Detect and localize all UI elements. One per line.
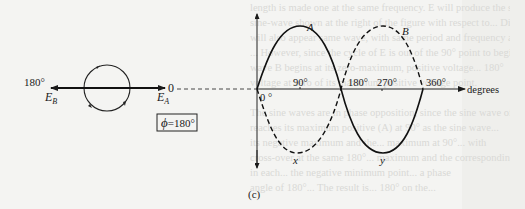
phasor-diagram: 180° EB 0 EA (24, 65, 257, 111)
point-y-label: y (379, 154, 385, 166)
curve-a-label: A (306, 21, 314, 33)
tick-label-90: 90° (293, 77, 308, 88)
eb-label: EB (44, 90, 57, 106)
tick-label-0: 0 ° (260, 92, 272, 103)
tick-label-270: 270° (377, 77, 397, 88)
curve-b-label: B (402, 25, 409, 37)
phase-diagram: 180° EB 0 EA ϕ=180° 0 ° 90° 180° 270° 36… (0, 0, 525, 209)
rotation-arrow-icon (96, 66, 100, 70)
figure-caption: (c) (248, 188, 261, 201)
point-x-label: x (292, 154, 298, 166)
tick-label-360: 360° (426, 77, 446, 88)
angle-0-label: 0 (168, 81, 174, 95)
tick-label-180: 180° (348, 77, 368, 88)
angle-180-label: 180° (24, 76, 45, 88)
x-axis-label: degrees (467, 84, 499, 95)
graph-axes: 0 ° 90° 180° 270° 360° degrees (257, 14, 499, 168)
phase-angle-box: ϕ=180° (157, 114, 197, 131)
phase-angle-text: ϕ=180° (161, 115, 195, 130)
